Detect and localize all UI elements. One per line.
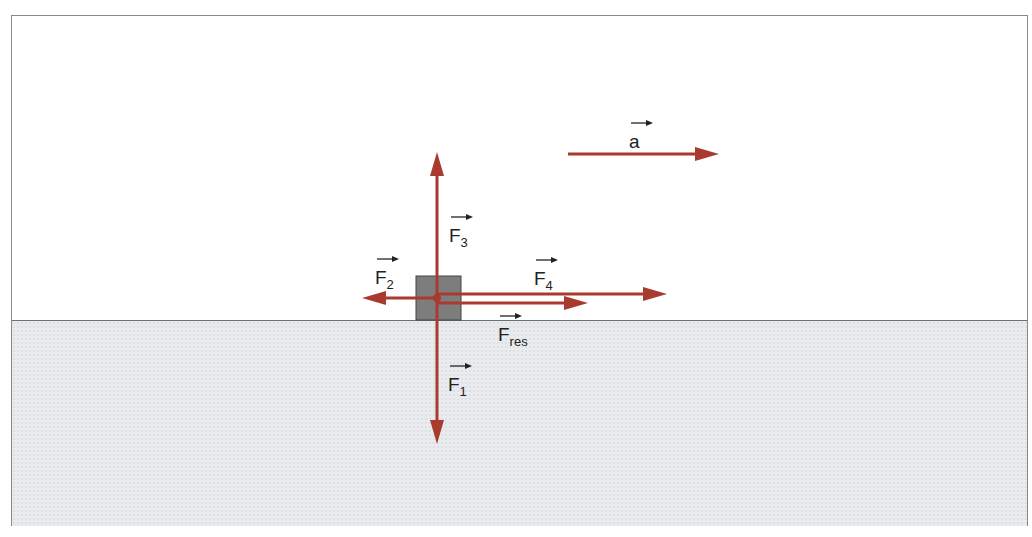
vector-f3-arrow: [430, 152, 444, 297]
label-fres: Fres: [498, 325, 528, 348]
vector-arrow-icon: [500, 312, 522, 320]
force-diagram: [0, 0, 1032, 537]
vector-arrow-icon: [536, 256, 558, 264]
label-f2: F2: [375, 268, 394, 291]
vector-arrow-icon: [631, 119, 653, 127]
label-f4: F4: [534, 269, 553, 292]
vector-arrow-icon: [450, 362, 472, 370]
vector-arrow-icon: [377, 255, 399, 263]
label-f1: F1: [448, 375, 467, 398]
label-a: a: [629, 132, 640, 151]
vector-arrow-icon: [451, 213, 473, 221]
application-point: [433, 294, 441, 302]
vector-acceleration-arrow: [568, 147, 719, 161]
label-f3: F3: [449, 226, 468, 249]
